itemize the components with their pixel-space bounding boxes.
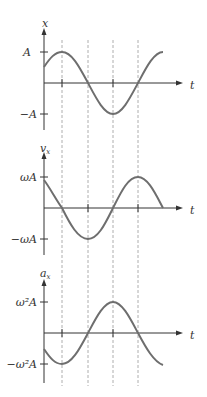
- min-velocity-label: −ωA: [11, 233, 37, 246]
- t-axis-label: t: [190, 204, 195, 217]
- min-acceleration-label: −ω²A: [6, 358, 37, 371]
- t-axis-label: t: [190, 329, 195, 342]
- velocity-graph: vx t ωA −ωA: [11, 142, 195, 255]
- neg-amplitude-label: −A: [20, 108, 37, 121]
- amplitude-label: A: [22, 46, 31, 59]
- dashed-guides: [62, 40, 138, 386]
- shm-diagram: x t A −A vx t ωA −ωA ax t ω²A −ω: [0, 0, 207, 397]
- position-graph: x t A −A: [20, 17, 195, 130]
- max-velocity-label: ωA: [20, 171, 37, 184]
- acceleration-graph: ax t ω²A −ω²A: [6, 267, 195, 383]
- y-axis-label: vx: [40, 142, 50, 156]
- y-axis-label: x: [42, 17, 49, 30]
- t-axis-label: t: [190, 79, 195, 92]
- y-axis-label: ax: [40, 267, 51, 281]
- max-acceleration-label: ω²A: [16, 296, 37, 309]
